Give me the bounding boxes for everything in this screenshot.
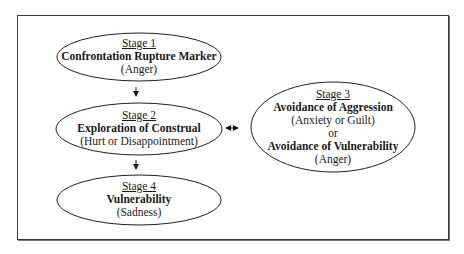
stage3-title-alt: Avoidance of Vulnerability (268, 140, 399, 153)
stage3-title: Avoidance of Aggression (268, 101, 399, 114)
stage2-emotion: (Hurt or Disappointment) (77, 135, 200, 148)
diagram-canvas: Stage 1 Confrontation Rupture Marker (An… (0, 0, 464, 254)
stage2-number: Stage 2 (77, 109, 200, 122)
stage2-title: Exploration of Construal (77, 122, 200, 135)
stage3-or-connector: or (268, 127, 399, 140)
stage3-emotion-alt: (Anger) (268, 153, 399, 166)
stage4-title: Vulnerability (107, 193, 172, 206)
stage3-label: Stage 3 Avoidance of Aggression (Anxiety… (268, 88, 399, 166)
stage3-emotion: (Anxiety or Guilt) (268, 114, 399, 127)
stage1-emotion: (Anger) (61, 63, 216, 76)
stage4-emotion: (Sadness) (107, 206, 172, 219)
stage2-label: Stage 2 Exploration of Construal (Hurt o… (77, 109, 200, 148)
stage4-number: Stage 4 (107, 180, 172, 193)
stage3-number: Stage 3 (268, 88, 399, 101)
stage1-label: Stage 1 Confrontation Rupture Marker (An… (61, 37, 216, 76)
stage1-number: Stage 1 (61, 37, 216, 50)
stage1-title: Confrontation Rupture Marker (61, 50, 216, 63)
stage4-label: Stage 4 Vulnerability (Sadness) (107, 180, 172, 219)
